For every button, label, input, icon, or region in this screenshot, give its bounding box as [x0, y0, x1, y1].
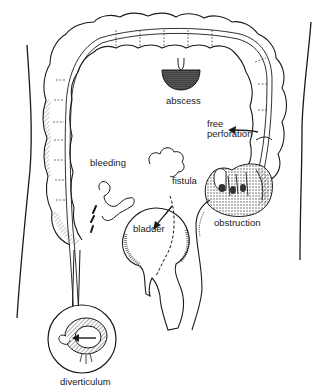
body-outline-right [300, 22, 311, 260]
label-bladder: bladder [133, 224, 165, 234]
body-outline-left [17, 45, 31, 318]
bleeding-diverticula [99, 182, 134, 221]
label-obstruction: obstruction [214, 218, 260, 228]
colon-illustration [0, 0, 321, 391]
abscess [162, 70, 200, 90]
label-fistula: fistula [172, 176, 197, 186]
label-free-perforation-line2: perforation [207, 129, 252, 139]
label-abscess: abscess [166, 96, 201, 106]
label-diverticulum: diverticulum [60, 377, 111, 387]
label-bleeding: bleeding [90, 158, 126, 168]
fistula-sac [149, 148, 184, 177]
label-free-perforation: free perforation [207, 119, 252, 139]
